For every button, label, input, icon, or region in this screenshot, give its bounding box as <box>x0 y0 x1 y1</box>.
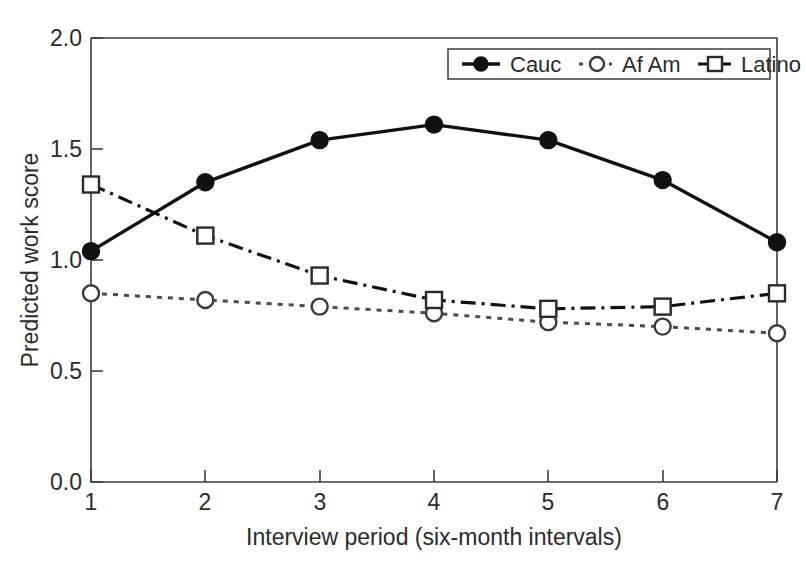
data-point <box>540 132 557 149</box>
x-tick-label-1: 1 <box>85 489 98 515</box>
data-point <box>426 116 443 133</box>
x-tick-label-2: 2 <box>199 489 212 515</box>
x-tick-label-6: 6 <box>657 489 670 515</box>
data-point <box>83 285 99 301</box>
legend: Cauc Af Am Latino <box>448 49 801 79</box>
data-point <box>654 172 671 189</box>
data-point <box>769 325 785 341</box>
data-point <box>426 292 442 308</box>
data-point <box>540 301 556 317</box>
data-point <box>197 228 213 244</box>
series-path-latino <box>91 185 777 309</box>
data-point <box>197 292 213 308</box>
data-point <box>312 299 328 315</box>
plot-axes <box>91 38 777 482</box>
data-point <box>312 268 328 284</box>
data-point <box>197 174 214 191</box>
legend-marker-filled-circle <box>474 57 488 71</box>
data-point <box>83 243 100 260</box>
line-chart: 2.0 1.5 1.0 0.5 0.0 1 2 3 4 5 6 7 Interv… <box>0 0 806 561</box>
legend-label-latino: Latino <box>741 52 801 77</box>
data-point <box>769 285 785 301</box>
data-point <box>769 234 786 251</box>
x-tick-label-4: 4 <box>428 489 441 515</box>
y-tick-label-1-0: 1.0 <box>50 247 82 273</box>
x-axis-title: Interview period (six-month intervals) <box>246 524 622 550</box>
legend-marker-open-square <box>708 57 722 71</box>
figure-canvas: 2.0 1.5 1.0 0.5 0.0 1 2 3 4 5 6 7 Interv… <box>0 0 806 561</box>
legend-label-af-am: Af Am <box>622 52 681 77</box>
x-tick-label-7: 7 <box>771 489 784 515</box>
y-axis-title: Predicted work score <box>17 153 43 368</box>
x-axis-ticks <box>91 470 777 482</box>
x-tick-label-3: 3 <box>314 489 327 515</box>
data-point <box>655 299 671 315</box>
y-tick-label-2-0: 2.0 <box>50 25 82 51</box>
axis-frame <box>91 38 777 482</box>
legend-label-cauc: Cauc <box>510 52 561 77</box>
series-cauc <box>83 116 786 260</box>
legend-marker-open-circle <box>590 57 604 71</box>
data-point <box>655 319 671 335</box>
data-point <box>311 132 328 149</box>
y-tick-label-1-5: 1.5 <box>50 136 82 162</box>
y-tick-label-0-5: 0.5 <box>50 358 82 384</box>
y-tick-label-0-0: 0.0 <box>50 469 82 495</box>
data-point <box>83 177 99 193</box>
data-series-layer <box>83 116 786 341</box>
series-latino <box>83 177 785 317</box>
x-tick-label-5: 5 <box>542 489 555 515</box>
